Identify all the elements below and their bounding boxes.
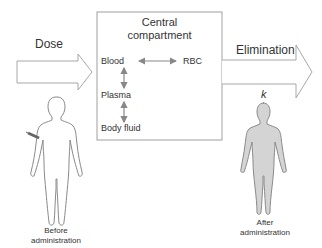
node-rbc: RBC (183, 56, 202, 66)
elimination-label: Elimination (236, 43, 295, 57)
central-compartment-title: Central compartment (97, 16, 222, 42)
before-administration-caption: Before administration (20, 226, 92, 246)
node-blood: Blood (101, 56, 124, 66)
caption-line-2: administration (229, 228, 301, 238)
after-administration-caption: After administration (229, 218, 301, 238)
node-body-fluid: Body fluid (101, 123, 141, 133)
caption-line-1: After (229, 218, 301, 228)
node-plasma: Plasma (101, 90, 131, 100)
caption-line-1: Before (20, 226, 92, 236)
caption-line-2: administration (20, 236, 92, 246)
human-before-figure (31, 97, 83, 225)
dose-label: Dose (35, 37, 63, 51)
rate-constant-k: k (261, 88, 267, 100)
dose-arrow (17, 54, 92, 90)
title-line-1: Central (97, 16, 222, 29)
human-after-figure (241, 103, 287, 214)
title-line-2: compartment (97, 29, 222, 42)
